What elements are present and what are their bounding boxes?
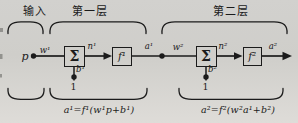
output-label-layer1: a¹ [145, 41, 153, 50]
transfer-box-layer2: f² [243, 47, 263, 66]
bias2-dot [203, 74, 208, 79]
net-label-layer2: n² [219, 41, 228, 50]
layer2-section-label: 第二层 [213, 6, 249, 17]
two-layer-network-diagram: 输入 第一层 第二层 p w¹ n¹ a¹ b¹ 1 w² n² a² b² 1… [0, 0, 298, 123]
a1-junction-dot [159, 53, 164, 58]
bias1-dot [71, 74, 76, 79]
layer2-overbrace-icon [162, 22, 287, 34]
layer2-underbrace-icon [179, 89, 283, 100]
scan-artifacts [0, 28, 3, 78]
input-underbrace-icon [8, 89, 44, 100]
arrow-into-f1-icon [104, 52, 113, 59]
sigma-symbol-layer1: Σ [70, 49, 80, 63]
input-section-label: 输入 [23, 6, 47, 17]
layer1-section-label: 第一层 [72, 6, 108, 17]
section-braces-top [8, 22, 287, 34]
sigma-symbol-layer2: Σ [201, 49, 211, 63]
layer1-underbrace-icon [50, 89, 147, 100]
weight-label-layer1: w¹ [40, 45, 51, 54]
layer1-overbrace-icon [50, 22, 146, 34]
input-node-dot [31, 53, 36, 58]
transfer-function-layer2: f² [248, 51, 256, 62]
bias-input-one-layer2: 1 [202, 82, 208, 92]
transfer-box-layer1: f¹ [112, 47, 132, 66]
weight-label-layer2: w² [173, 42, 184, 51]
net-label-layer1: n¹ [88, 41, 97, 50]
output-arrow-icon [283, 52, 293, 61]
layer2-formula: a²=f²(w²a¹+b²) [201, 105, 275, 115]
arrow-into-f2-icon [234, 52, 243, 59]
input-symbol-p: p [21, 51, 28, 62]
layer1-formula: a¹=f¹(w¹p+b¹) [64, 105, 135, 115]
output-label-layer2: a² [269, 41, 277, 50]
sum-box-layer1: Σ [64, 46, 85, 67]
section-braces-bottom [8, 89, 283, 100]
input-overbrace-icon [8, 22, 43, 34]
bias-connections [74, 67, 206, 81]
bias-input-one-layer1: 1 [70, 82, 76, 92]
sum-box-layer2: Σ [196, 46, 217, 67]
transfer-function-layer1: f¹ [118, 51, 126, 62]
